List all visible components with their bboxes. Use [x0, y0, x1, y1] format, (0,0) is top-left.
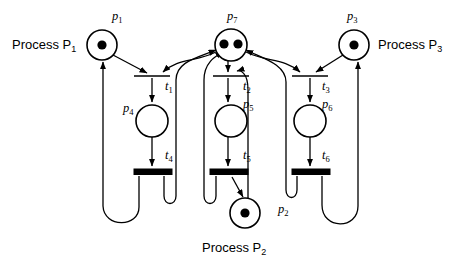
token — [240, 208, 249, 217]
process-label-p1: Process P1 — [12, 37, 76, 54]
token — [349, 40, 358, 49]
token — [219, 39, 228, 48]
petri-net-canvas: p1 p7 p3 p4 p5 p6 p2 t1 t2 t3 t4 t5 t6 P… — [0, 0, 462, 263]
process-label-p3: Process P3 — [378, 37, 442, 54]
place-p2[interactable] — [230, 198, 260, 228]
place-p1[interactable] — [87, 30, 117, 60]
token — [233, 39, 242, 48]
petri-net-diagram: p1 p7 p3 p4 p5 p6 p2 t1 t2 t3 t4 t5 t6 P… — [0, 0, 462, 263]
process-label-p2: Process P2 — [202, 240, 266, 257]
transition-t5[interactable] — [210, 169, 248, 175]
transition-t6[interactable] — [292, 169, 330, 175]
transition-t4[interactable] — [134, 169, 172, 175]
place-p3[interactable] — [339, 30, 369, 60]
place-p4[interactable] — [136, 105, 168, 137]
token — [97, 40, 106, 49]
place-p7[interactable] — [215, 29, 247, 61]
